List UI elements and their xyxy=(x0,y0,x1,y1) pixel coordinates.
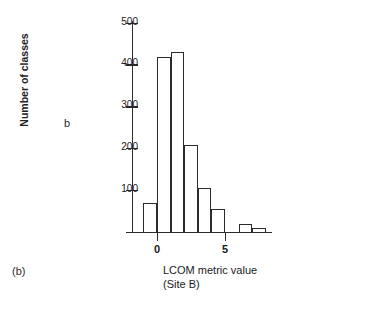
x-axis-tick xyxy=(157,232,158,241)
histogram-bar xyxy=(171,52,185,232)
y-axis-line xyxy=(132,21,133,233)
histogram-bar xyxy=(143,203,157,232)
y-axis-tick-label-wrap: 400 xyxy=(92,64,138,65)
histogram-bar xyxy=(184,145,198,232)
y-axis-tick-label: 300 xyxy=(104,99,138,110)
y-axis-tick-label-wrap: 100 xyxy=(92,190,138,191)
histogram-bar xyxy=(157,57,171,232)
y-axis-tick-label: 400 xyxy=(104,57,138,68)
x-axis-tick-label: 0 xyxy=(145,243,169,255)
x-axis-label-line1: LCOM metric value xyxy=(163,263,257,277)
histogram-bar xyxy=(252,228,266,232)
x-axis-tick-label: 5 xyxy=(213,243,237,255)
y-axis-tick-label: 200 xyxy=(104,141,138,152)
y-axis-tick-label: 100 xyxy=(104,183,138,194)
x-axis-line xyxy=(126,232,272,233)
y-axis-tick-label: 500 xyxy=(104,16,138,27)
y-axis-tick-label-wrap: 200 xyxy=(92,148,138,149)
histogram-bar xyxy=(239,224,253,232)
x-axis-tick xyxy=(225,232,226,241)
histogram-bar xyxy=(198,188,212,232)
histogram-bar xyxy=(211,209,225,232)
y-axis-tick-label-wrap: 500 xyxy=(92,23,138,24)
x-axis-label: LCOM metric value (Site B) xyxy=(163,263,257,291)
x-axis-label-line2: (Site B) xyxy=(163,277,257,291)
figure-panel-b: b (b) Number of classes 1002003004005000… xyxy=(0,0,385,313)
y-axis-tick-label-wrap: 300 xyxy=(92,106,138,107)
